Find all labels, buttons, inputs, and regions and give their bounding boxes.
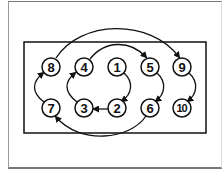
tightening-sequence-diagram: 8 4 1 5 9 7 3 2 6 10: [0, 0, 224, 171]
bolt-label: 1: [113, 60, 120, 75]
bolt-9: 9: [173, 58, 191, 76]
arrow-5-to-6: [156, 73, 164, 101]
bolt-3: 3: [75, 99, 93, 117]
bolt-5: 5: [141, 58, 159, 76]
bolt-label: 4: [80, 60, 88, 75]
bolt-2: 2: [108, 99, 126, 117]
bolt-label: 2: [113, 101, 120, 116]
arrow-4-to-5: [90, 44, 146, 59]
arrow-8-to-9: [56, 29, 179, 58]
bolt-label: 10: [176, 102, 187, 114]
arrow-7-to-8: [35, 73, 45, 102]
bolt-10: 10: [173, 99, 191, 117]
bolt-1: 1: [108, 58, 126, 76]
arrow-3-to-4: [67, 73, 77, 102]
bolt-label: 3: [80, 101, 87, 116]
bolt-label: 9: [178, 60, 185, 75]
bolt-4: 4: [75, 58, 93, 76]
bolt-6: 6: [141, 99, 159, 117]
bolt-8: 8: [42, 58, 60, 76]
bolt-label: 6: [146, 101, 153, 116]
bolt-label: 8: [47, 60, 54, 75]
arrow-9-to-10: [188, 73, 196, 101]
bolt-label: 5: [146, 60, 153, 75]
bolt-7: 7: [42, 99, 60, 117]
arrow-1-to-2: [122, 73, 131, 101]
bolt-label: 7: [47, 101, 54, 116]
